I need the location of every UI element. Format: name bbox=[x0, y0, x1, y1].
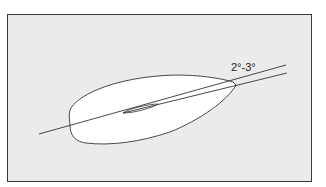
angle-label: 2°-3° bbox=[231, 61, 256, 73]
diagram-canvas: 2°-3° bbox=[0, 0, 326, 187]
blade-outline bbox=[69, 75, 236, 144]
